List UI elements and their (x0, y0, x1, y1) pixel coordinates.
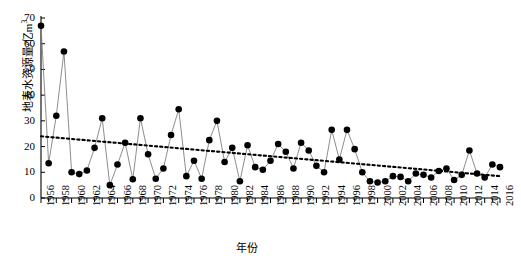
x-axis-tick-label: 2016 (504, 185, 515, 206)
data-point (428, 174, 435, 181)
x-axis-tick-label: 2012 (473, 185, 484, 206)
data-point (53, 112, 60, 119)
x-axis-tick-label: 1974 (183, 185, 194, 206)
data-point (481, 174, 488, 181)
x-axis-tick-label: 1992 (320, 185, 331, 206)
x-axis-tick-label: 2014 (489, 185, 500, 206)
data-point (206, 137, 213, 144)
data-point (367, 178, 374, 185)
x-axis-tick-label: 2010 (458, 185, 469, 206)
data-point (130, 176, 137, 183)
data-point (68, 169, 75, 176)
chart-figure: 地表水资源量/亿m3 年份 01020304050607019561958196… (0, 0, 521, 259)
x-axis-tick-label: 1996 (351, 185, 362, 206)
data-point (405, 178, 412, 185)
data-point (298, 139, 305, 146)
data-point (328, 127, 335, 134)
data-point (451, 177, 458, 184)
data-point (497, 164, 504, 171)
x-axis-tick-label: 2002 (397, 185, 408, 206)
data-point (458, 172, 465, 179)
x-axis-tick-label: 1970 (152, 185, 163, 206)
data-point (344, 127, 351, 134)
data-point (420, 172, 427, 179)
x-axis-tick-label: 1956 (45, 185, 56, 206)
x-axis-tick-label: 1958 (60, 185, 71, 206)
x-axis-tick-label: 1984 (259, 185, 270, 206)
data-point (84, 167, 91, 174)
data-point (351, 146, 358, 153)
data-point (275, 141, 282, 148)
data-point (38, 22, 45, 29)
x-axis-title: 年份 (236, 239, 258, 255)
x-axis-tick-label: 1972 (167, 185, 178, 206)
data-point (436, 168, 443, 175)
x-axis-tick-label: 1990 (305, 185, 316, 206)
data-point (466, 147, 473, 154)
y-axis-tick-label: 20 (11, 140, 35, 152)
data-point (137, 115, 144, 122)
data-point (237, 178, 244, 185)
x-axis-tick-label: 1980 (229, 185, 240, 206)
data-point (267, 157, 274, 164)
data-point (214, 118, 221, 125)
data-point (168, 132, 175, 139)
x-axis-tick-label: 1994 (336, 185, 347, 206)
data-point (413, 170, 420, 177)
data-point (313, 163, 320, 170)
x-axis-tick-label: 1978 (213, 185, 224, 206)
data-point (91, 145, 98, 152)
data-point (244, 142, 251, 149)
data-point (321, 169, 328, 176)
data-point (489, 161, 496, 168)
x-axis-tick-label: 1998 (366, 185, 377, 206)
data-point (191, 157, 198, 164)
x-axis-tick-label: 1964 (106, 185, 117, 206)
data-point (397, 174, 404, 181)
y-axis-tick-label: 60 (11, 37, 35, 49)
data-point (114, 161, 121, 168)
y-axis-tick-label: 10 (11, 165, 35, 177)
data-point (252, 164, 259, 171)
data-point (183, 173, 190, 180)
x-axis-tick-label: 1976 (198, 185, 209, 206)
x-axis-tick-label: 1988 (290, 185, 301, 206)
y-axis-tick-label: 0 (11, 191, 35, 203)
data-point (390, 173, 397, 180)
data-point (175, 106, 182, 113)
data-point (382, 178, 389, 185)
x-axis-tick-label: 2000 (382, 185, 393, 206)
data-point (152, 175, 159, 182)
data-point (229, 145, 236, 152)
data-point (122, 139, 129, 146)
x-axis-tick-label: 1966 (122, 185, 133, 206)
data-point (221, 159, 228, 166)
x-axis-tick-label: 1986 (275, 185, 286, 206)
y-axis-tick-label: 50 (11, 62, 35, 74)
data-point (336, 156, 343, 163)
data-point (283, 148, 290, 155)
data-point (359, 169, 366, 176)
y-axis-tick-label: 70 (11, 11, 35, 23)
data-point (45, 160, 52, 167)
data-point (305, 147, 312, 154)
x-axis-tick-label: 1960 (76, 185, 87, 206)
chart-plot-area (0, 0, 521, 259)
x-axis-tick-label: 2006 (428, 185, 439, 206)
x-axis-tick-label: 2004 (412, 185, 423, 206)
y-axis-tick-label: 30 (11, 114, 35, 126)
data-point (474, 170, 481, 177)
x-axis-tick-label: 1968 (137, 185, 148, 206)
x-axis-tick-label: 2008 (443, 185, 454, 206)
data-point (198, 175, 205, 182)
x-axis-tick-label: 1962 (91, 185, 102, 206)
data-point (260, 166, 267, 173)
data-point (145, 151, 152, 158)
data-point (61, 48, 68, 55)
data-point (99, 115, 106, 122)
data-point (76, 171, 83, 178)
x-axis-tick-label: 1982 (244, 185, 255, 206)
data-point (160, 165, 167, 172)
data-point (443, 165, 450, 172)
y-axis-tick-label: 40 (11, 88, 35, 100)
